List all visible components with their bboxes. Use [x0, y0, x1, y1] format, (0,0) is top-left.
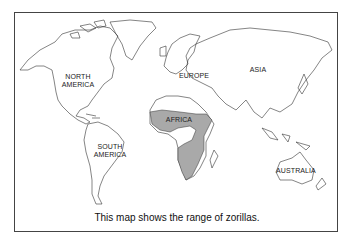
label-asia: ASIA	[246, 66, 270, 74]
label-north-america: NORTH AMERICA	[58, 73, 98, 89]
map-caption: This map shows the range of zorillas.	[0, 212, 354, 223]
label-europe: EUROPE	[176, 72, 212, 80]
label-africa: AFRICA	[164, 116, 194, 124]
label-south-america: SOUTH AMERICA	[92, 143, 128, 159]
south-america-outline	[84, 122, 124, 204]
greenland-outline	[110, 20, 156, 60]
label-australia: AUSTRALIA	[276, 167, 316, 175]
europe-outline	[164, 34, 200, 74]
